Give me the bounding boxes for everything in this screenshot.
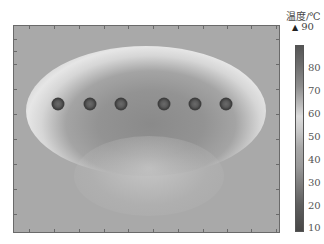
tick bbox=[14, 64, 17, 65]
tick bbox=[276, 64, 279, 65]
tick bbox=[178, 26, 179, 29]
colorbar-tick-label: 30 bbox=[308, 178, 321, 188]
tick bbox=[79, 26, 80, 29]
tick bbox=[29, 26, 30, 29]
tick bbox=[79, 229, 80, 232]
heat-source-3 bbox=[115, 98, 128, 111]
tick bbox=[153, 229, 154, 232]
colorbar-tick-label: 50 bbox=[308, 132, 321, 142]
tick bbox=[104, 229, 105, 232]
heatmap-plot-area bbox=[13, 25, 280, 233]
tick bbox=[14, 214, 17, 215]
colorbar-tick-label: 20 bbox=[308, 201, 321, 211]
heat-source-6 bbox=[220, 98, 233, 111]
tick bbox=[276, 26, 277, 29]
heat-source-2 bbox=[84, 98, 97, 111]
tick bbox=[14, 39, 17, 40]
tick bbox=[203, 229, 204, 232]
tick bbox=[227, 229, 228, 232]
tick bbox=[276, 189, 279, 190]
colorbar-tick-label: 80 bbox=[308, 63, 321, 73]
tick bbox=[276, 139, 279, 140]
tick bbox=[14, 139, 17, 140]
colorbar-max-label: ▲90 bbox=[292, 21, 314, 32]
tick bbox=[153, 26, 154, 29]
colorbar-max-value: 90 bbox=[301, 21, 314, 32]
heat-source-4 bbox=[158, 98, 171, 111]
tick bbox=[276, 164, 279, 165]
colorbar-tick-label: 40 bbox=[308, 155, 321, 165]
tick bbox=[54, 229, 55, 232]
max-triangle-icon: ▲ bbox=[292, 23, 298, 32]
tick bbox=[14, 51, 17, 52]
heat-source-5 bbox=[189, 98, 202, 111]
tick bbox=[276, 89, 279, 90]
tick bbox=[227, 26, 228, 29]
tick bbox=[54, 26, 55, 29]
tick bbox=[276, 114, 279, 115]
tick bbox=[128, 229, 129, 232]
tick bbox=[203, 26, 204, 29]
tick bbox=[14, 89, 17, 90]
tick bbox=[178, 229, 179, 232]
colorbar-tick-label: 10 bbox=[308, 223, 321, 233]
tick bbox=[251, 229, 252, 232]
tick bbox=[104, 26, 105, 29]
tick bbox=[29, 229, 30, 232]
tick bbox=[251, 26, 252, 29]
colorbar-tick-label: 60 bbox=[308, 109, 321, 119]
tick bbox=[14, 164, 17, 165]
tick bbox=[276, 214, 279, 215]
tick bbox=[128, 26, 129, 29]
colorbar bbox=[295, 45, 304, 232]
tick bbox=[276, 39, 279, 40]
soft-warm-lobe bbox=[74, 136, 224, 216]
tick bbox=[14, 189, 17, 190]
heat-source-1 bbox=[52, 98, 65, 111]
tick bbox=[14, 114, 17, 115]
colorbar-tick-label: 70 bbox=[308, 86, 321, 96]
tick bbox=[276, 229, 277, 232]
